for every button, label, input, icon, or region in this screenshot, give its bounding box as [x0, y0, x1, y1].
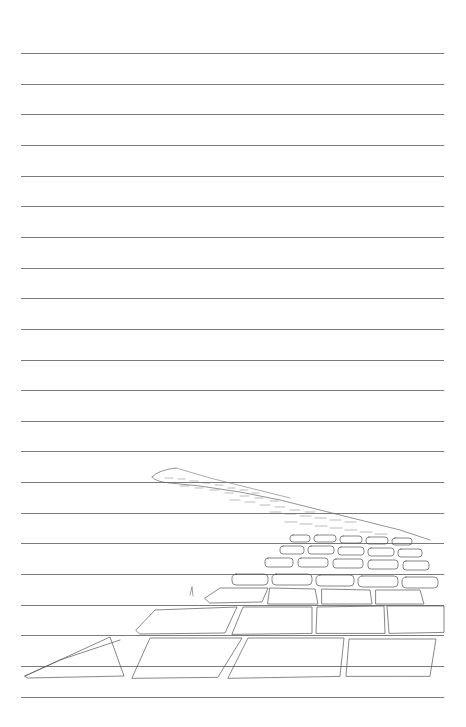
cobblestone-path-sketch [0, 0, 466, 727]
lined-paper-page [0, 0, 466, 727]
